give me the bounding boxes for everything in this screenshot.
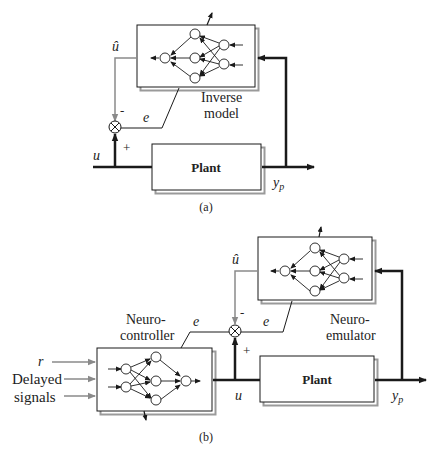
neuro-controller-block	[97, 348, 216, 420]
emulator-label-line1: Neuro-	[330, 312, 370, 327]
plant-label: Plant	[302, 372, 332, 387]
estimate-feedback-line	[115, 58, 137, 121]
neural-control-diagram: Inverse model û - e u + Plant yp (a)	[0, 0, 440, 458]
error-label: e	[143, 110, 149, 125]
reference-label: r	[38, 354, 44, 369]
adaptation-arrow-icon	[319, 227, 321, 237]
plus-sign: +	[123, 140, 130, 155]
error-line	[121, 88, 179, 128]
error-left-label: e	[193, 314, 199, 329]
emulator-label-line2: emulator	[326, 328, 376, 343]
error-line-left	[181, 332, 229, 348]
neuro-emulator-block	[258, 227, 376, 304]
plant-block-b: Plant	[260, 356, 378, 406]
caption-b: (b)	[199, 430, 213, 444]
summing-junction-icon	[109, 121, 121, 133]
estimate-feedback-line	[235, 271, 258, 324]
control-label: u	[235, 388, 242, 403]
input-label: u	[93, 148, 100, 163]
error-right-label: e	[263, 314, 269, 329]
plant-label: Plant	[191, 160, 221, 175]
caption-a: (a)	[199, 200, 212, 214]
delayed-label-line2: signals	[14, 389, 56, 405]
inverse-model-label-line2: model	[204, 106, 239, 121]
diagram-a: Inverse model û - e u + Plant yp (a)	[93, 13, 314, 214]
delayed-label-line1: Delayed	[12, 371, 62, 387]
controller-label-line2: controller	[120, 328, 175, 343]
plant-block-a: Plant	[152, 144, 265, 194]
minus-sign: -	[240, 305, 244, 320]
inverse-model-block	[137, 13, 259, 91]
estimate-label: û	[232, 252, 239, 267]
inverse-model-label-line1: Inverse	[201, 90, 242, 105]
summing-junction-icon	[229, 325, 241, 337]
minus-sign: -	[120, 103, 124, 118]
output-feedback-line	[375, 271, 402, 380]
estimate-label: û	[112, 39, 119, 54]
output-label: yp	[390, 388, 403, 405]
diagram-b: Neuro- emulator û - e e Neuro- controlle…	[12, 227, 426, 444]
adaptation-arrow-icon	[207, 13, 212, 25]
plus-sign: +	[243, 343, 250, 358]
output-label: yp	[271, 175, 284, 192]
controller-label-line1: Neuro-	[126, 312, 166, 327]
